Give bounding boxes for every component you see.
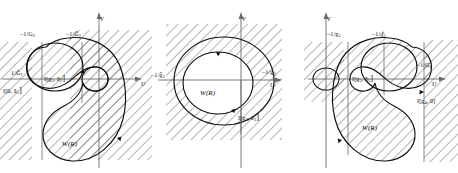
tick-label-right-p3: –1/G4 bbox=[417, 62, 432, 68]
region-label-WR-p1: W(R) bbox=[62, 141, 77, 148]
tick-label-right-p2: –1/g3 bbox=[262, 69, 276, 75]
tick-label-left-p1: 1/Ḡ1 bbox=[11, 70, 23, 76]
tick-label-left-p2: –1/ḡ3 bbox=[151, 72, 165, 78]
axis-label-u-p2: U bbox=[270, 82, 274, 88]
panel-3: –1/g5 –1/ɠ̄5 –1/G4 I[g5, ā5] I[g4, 0] V … bbox=[304, 0, 458, 173]
region-label-WR-p2: W(R) bbox=[200, 90, 215, 97]
interval-label-center-p3: I[g5, ā5] bbox=[352, 74, 373, 83]
tick-label-top-left-p1: –1/G2 bbox=[20, 31, 35, 37]
figure-three-panel-numerical-range: –1/G2 –1/Ḡ2 1/Ḡ1 I[0, ā1] I[g2, ā2] V … bbox=[0, 0, 458, 173]
panel-1: –1/G2 –1/Ḡ2 1/Ḡ1 I[0, ā1] I[g2, ā2] V … bbox=[0, 0, 152, 173]
axis-label-v-p2: V bbox=[242, 16, 246, 22]
axis-label-u-p3: U bbox=[432, 81, 436, 87]
axis-label-u-p1: U bbox=[141, 81, 145, 87]
tick-label-top-right-p3: –1/ɠ̄5 bbox=[372, 31, 386, 37]
tick-label-top-left-p3: –1/g5 bbox=[327, 31, 341, 37]
hatch-region-left bbox=[0, 42, 32, 160]
interval-label-bottom-p2: I[g3, ā3] bbox=[238, 113, 259, 122]
region-label-WR-p3: W(R) bbox=[362, 125, 377, 132]
interval-label-right-p3: I[g4, 0] bbox=[417, 98, 435, 104]
axis-label-v-p1: V bbox=[100, 16, 104, 22]
panel-2-graphic bbox=[152, 0, 304, 173]
tick-label-top-right-p1: –1/Ḡ2 bbox=[66, 31, 81, 37]
interval-label-center-p1: I[g2, ā2] bbox=[44, 74, 65, 83]
axis-label-v-p3: V bbox=[327, 16, 331, 22]
interval-label-left-p1: I[0, ā1] bbox=[3, 86, 22, 95]
panel-2: –1/ḡ3 –1/g3 I[g3, ā3] V U W(R) bbox=[152, 0, 304, 173]
